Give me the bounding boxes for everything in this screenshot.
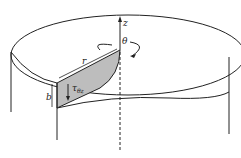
theta-arrowhead — [130, 54, 136, 58]
b-label: b — [46, 92, 52, 102]
cylinder-diagram: z θ r b τθz — [0, 0, 241, 158]
z-arrowhead — [118, 16, 122, 22]
r-label: r — [82, 56, 87, 66]
theta-label: θ — [122, 36, 128, 46]
z-label: z — [122, 18, 128, 28]
